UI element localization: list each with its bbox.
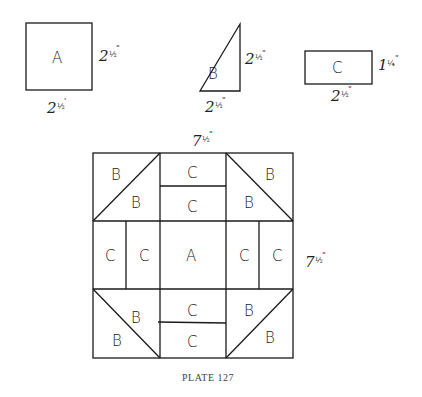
label-tr-inner: B — [244, 194, 254, 212]
svg-text:2: 2 — [98, 47, 109, 65]
label-br-outer: B — [265, 329, 275, 347]
piece-b-side-dim: 2 ½ " — [244, 48, 266, 68]
label-tm-top: C — [187, 164, 197, 182]
label-bm-top: C — [187, 302, 197, 320]
label-bl-outer: B — [112, 332, 122, 350]
label-bm-bottom: C — [187, 333, 197, 351]
label-br-inner: B — [244, 302, 254, 320]
svg-text:": " — [209, 129, 213, 138]
quilt-diagram: A 2 ½ " 2 ½ ' B 2 ½ " 2 ½ " C 1 ¼ — [0, 0, 422, 397]
piece-a-bottom-dim: 2 ½ ' — [46, 96, 66, 117]
svg-text:2: 2 — [330, 87, 341, 105]
svg-text:": " — [348, 84, 352, 93]
piece-c-label: C — [332, 59, 342, 77]
piece-b-triangle — [200, 24, 240, 91]
label-mr-left: C — [239, 247, 249, 265]
label-center: A — [186, 247, 196, 265]
svg-text:": " — [222, 95, 226, 104]
diagonal-bottom-left — [93, 289, 160, 358]
svg-text:2: 2 — [46, 99, 57, 117]
block-side-dim: 7 ½ " — [305, 250, 326, 271]
block-top-dim: 7 ½ " — [192, 129, 213, 150]
piece-c-bottom-dim: 2 ½ " — [330, 84, 352, 105]
piece-b: B 2 ½ " 2 ½ " — [200, 24, 266, 116]
svg-text:': ' — [64, 96, 66, 105]
label-mr-right: C — [272, 247, 282, 265]
piece-c: C 1 ¼ " 2 ½ " — [305, 51, 399, 105]
piece-a-label: A — [52, 49, 62, 67]
diagonal-top-right — [226, 153, 293, 221]
label-tr-outer: B — [265, 166, 275, 184]
svg-text:¼: ¼ — [387, 59, 395, 68]
label-tm-bottom: C — [187, 198, 197, 216]
svg-text:": " — [116, 43, 120, 52]
diagonal-top-left — [93, 153, 160, 221]
svg-text:": " — [322, 250, 326, 259]
piece-b-label: B — [208, 65, 218, 83]
svg-text:": " — [395, 53, 399, 62]
svg-text:2: 2 — [204, 98, 215, 116]
diagonal-bottom-right — [226, 289, 293, 358]
seam-bottom-middle — [158, 322, 226, 323]
piece-a: A 2 ½ " 2 ½ ' — [26, 23, 120, 117]
svg-text:": " — [262, 48, 266, 57]
piece-b-bottom-dim: 2 ½ " — [204, 95, 226, 116]
piece-a-side-dim: 2 ½ " — [98, 43, 120, 65]
label-tl-inner: B — [131, 194, 141, 212]
label-tl-outer: B — [111, 166, 121, 184]
plate-caption: PLATE 127 — [182, 372, 234, 383]
svg-text:7: 7 — [192, 132, 202, 150]
quilt-block: B B C C B B C C A C C B B C C B B — [93, 153, 293, 358]
svg-text:2: 2 — [244, 50, 255, 68]
label-ml-left: C — [105, 247, 115, 265]
label-ml-right: C — [139, 247, 149, 265]
piece-c-side-dim: 1 ¼ " — [378, 53, 399, 74]
svg-text:7: 7 — [305, 253, 315, 271]
label-bl-inner: B — [131, 309, 141, 327]
